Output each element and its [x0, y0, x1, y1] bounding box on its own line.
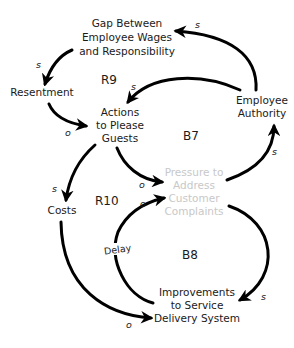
- polarity-actions-pressure: o: [139, 179, 145, 190]
- loop-label-b8: B8: [182, 248, 198, 262]
- loop-label-r10: R10: [95, 194, 119, 208]
- node-pressure-customer-complaints: Pressure to Address Customer Complaints: [164, 166, 223, 217]
- polarity-improvements-pressure: o: [140, 198, 146, 209]
- loop-label-b7: B7: [183, 129, 199, 143]
- svg-text:Gap Between: Gap Between: [92, 17, 163, 29]
- svg-text:Complaints: Complaints: [164, 205, 223, 217]
- svg-text:Pressure to: Pressure to: [165, 166, 224, 178]
- node-employee-authority: Employee Authority: [236, 94, 288, 119]
- arrow-pressure-to-authority: [227, 126, 274, 180]
- arrow-actions-to-pressure: [117, 148, 162, 182]
- svg-text:Employee: Employee: [236, 94, 288, 106]
- svg-text:Resentment: Resentment: [10, 86, 73, 98]
- svg-text:Actions: Actions: [101, 106, 139, 118]
- svg-text:to Service: to Service: [171, 299, 224, 311]
- node-gap-wages-responsibility: Gap Between Employee Wages and Responsib…: [79, 17, 175, 57]
- polarity-authority-actions: s: [131, 81, 136, 92]
- svg-text:to Please: to Please: [96, 119, 144, 131]
- arrow-gap-to-resentment: [45, 50, 72, 84]
- svg-text:Costs: Costs: [48, 204, 77, 216]
- polarity-pressure-improvements: s: [261, 291, 266, 302]
- loop-label-r9: R9: [101, 73, 117, 87]
- svg-text:Delivery System: Delivery System: [154, 312, 240, 324]
- svg-text:Address: Address: [173, 179, 215, 191]
- node-costs: Costs: [48, 204, 77, 216]
- polarity-authority-gap: s: [195, 19, 200, 30]
- svg-text:Authority: Authority: [238, 107, 287, 119]
- svg-text:Employee Wages: Employee Wages: [82, 31, 172, 43]
- svg-text:Improvements: Improvements: [159, 286, 235, 298]
- node-improvements-service-delivery: Improvements to Service Delivery System: [154, 286, 240, 324]
- polarity-pressure-authority: s: [272, 146, 277, 157]
- polarity-actions-costs: s: [52, 183, 57, 194]
- arrow-costs-to-improvements: [61, 222, 151, 318]
- svg-text:Customer: Customer: [168, 192, 220, 204]
- polarity-costs-improvements: o: [126, 319, 132, 330]
- node-resentment: Resentment: [10, 86, 73, 98]
- arrow-actions-to-costs: [66, 145, 95, 200]
- svg-text:Guests: Guests: [102, 132, 138, 144]
- svg-text:and Responsibility: and Responsibility: [79, 45, 175, 57]
- node-actions-to-please-guests: Actions to Please Guests: [96, 106, 144, 144]
- causal-loop-diagram: Gap Between Employee Wages and Responsib…: [0, 0, 294, 348]
- arrow-resentment-to-actions: [49, 104, 86, 126]
- polarity-gap-resentment: s: [36, 59, 41, 70]
- polarity-resentment-actions: o: [65, 127, 71, 138]
- arrow-authority-to-actions: [128, 78, 240, 102]
